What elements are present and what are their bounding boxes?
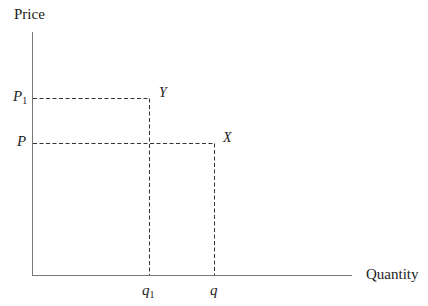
q1-symbol: q xyxy=(142,282,150,298)
point-y-label: Y xyxy=(159,85,167,101)
point-x-label: X xyxy=(223,130,232,146)
y-axis-label: Price xyxy=(14,6,45,23)
p1-symbol: P xyxy=(13,88,22,104)
p-label: P xyxy=(17,133,26,150)
x-axis-label: Quantity xyxy=(366,266,419,283)
q1-label: q1 xyxy=(142,282,155,300)
diagram-canvas xyxy=(0,0,428,306)
p1-subscript: 1 xyxy=(22,95,27,106)
q1-subscript: 1 xyxy=(150,289,155,300)
p1-label: P1 xyxy=(13,88,27,106)
q-label: q xyxy=(210,282,218,299)
